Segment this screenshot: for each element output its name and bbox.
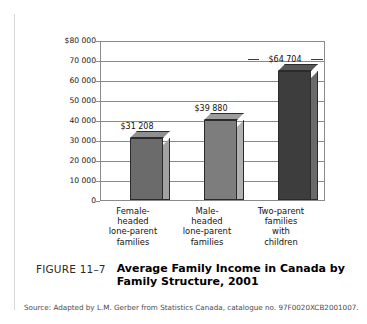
bar-female-headed-lone-parent-families	[130, 138, 163, 200]
figure-source-note: Source: Adapted by L.M. Gerber from Stat…	[24, 303, 359, 312]
x-axis-label-line: Female-	[98, 206, 168, 216]
data-label-bar-1: $31 208	[102, 122, 172, 131]
bar-side-face	[311, 71, 318, 200]
y-axis-label-60000: 60 000	[40, 77, 96, 85]
x-axis-label-line: Two-parent	[246, 206, 316, 216]
bar-top-face	[130, 131, 170, 138]
y-axis-tickmark-0	[96, 201, 100, 202]
x-axis-label-line: lone-parent	[98, 226, 168, 236]
x-axis-label-two-parent-families-with-children: Two-parent families with children	[246, 206, 316, 247]
x-axis-label-line: headed	[172, 216, 242, 226]
y-axis-label-30000: 30 000	[40, 137, 96, 145]
data-label-bar-2: $39 880	[176, 104, 246, 113]
y-axis-label-50000: 50 000	[40, 97, 96, 105]
figure-caption: FIGURE 11–7 Average Family Income in Can…	[36, 262, 354, 288]
x-axis-label-line: lone-parent	[172, 226, 242, 236]
bar-front-face	[130, 138, 163, 200]
y-axis-label-0: 0	[40, 197, 96, 205]
bar-male-headed-lone-parent-families	[204, 120, 237, 200]
figure-title: Average Family Income in Canada by Famil…	[117, 262, 354, 288]
data-label-leader-left	[248, 59, 259, 60]
bar-side-face	[237, 120, 244, 200]
x-axis-label-female-headed-lone-parent-families: Female- headed lone-parent families	[98, 206, 168, 247]
bar-top-face	[204, 113, 244, 120]
bar-top-face	[278, 64, 318, 71]
plot-area	[100, 41, 325, 201]
bar-side-face	[163, 138, 170, 200]
y-axis-label-70000: 70 000	[40, 57, 96, 65]
y-axis-label-10000: 10 000	[40, 177, 96, 185]
bar-front-face	[278, 71, 311, 200]
x-axis-label-male-headed-lone-parent-families: Male- headed lone-parent families	[172, 206, 242, 247]
data-label-bar-3: $64 704	[250, 55, 320, 64]
x-axis-label-line: families	[246, 216, 316, 226]
y-axis-label-80000: $80 000	[40, 37, 96, 45]
bar-chart: $80 000 70 000 60 000 50 000 40 000 30 0…	[0, 0, 367, 256]
y-axis-label-20000: 20 000	[40, 157, 96, 165]
x-axis-label-line: Male-	[172, 206, 242, 216]
bar-front-face	[204, 120, 237, 200]
x-axis-label-line: with	[246, 226, 316, 236]
figure-number: FIGURE 11–7	[36, 262, 106, 276]
data-label-leader-right	[311, 59, 323, 60]
bar-two-parent-families-with-children	[278, 71, 311, 200]
x-axis-label-line: families	[172, 237, 242, 247]
x-axis-label-line: headed	[98, 216, 168, 226]
x-axis-label-line: children	[246, 237, 316, 247]
y-axis-label-40000: 40 000	[40, 117, 96, 125]
x-axis-label-line: families	[98, 237, 168, 247]
